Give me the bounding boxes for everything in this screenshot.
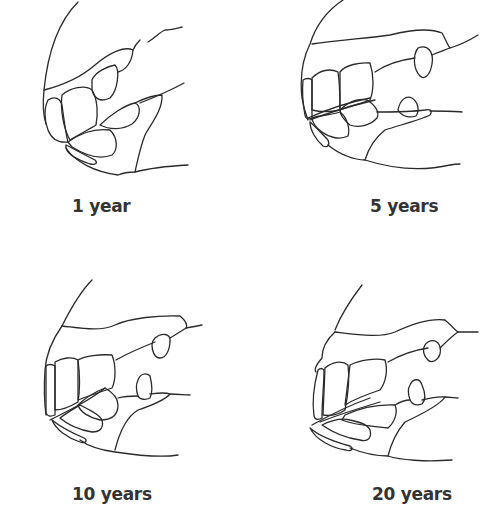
age-label-1-year: 1 year	[72, 196, 130, 216]
panel-5-years: 5 years	[250, 0, 493, 230]
panel-20-years: 20 years	[250, 270, 493, 528]
panel-10-years: 10 years	[0, 270, 250, 528]
age-label-10-years: 10 years	[72, 484, 152, 504]
age-label-5-years: 5 years	[370, 196, 438, 216]
age-label-20-years: 20 years	[372, 484, 452, 504]
panel-1-year: 1 year	[0, 0, 250, 230]
